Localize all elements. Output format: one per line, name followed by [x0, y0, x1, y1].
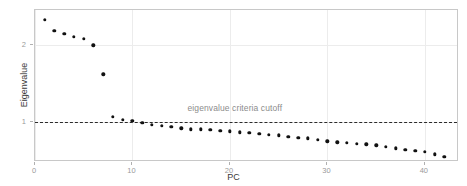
y-axis-title: Eigenvalue [19, 63, 29, 108]
data-point [433, 153, 436, 156]
data-point [384, 145, 387, 148]
data-point [287, 135, 290, 138]
data-point [443, 155, 446, 158]
data-point [189, 127, 192, 130]
data-point [374, 143, 377, 146]
data-point [296, 136, 299, 139]
y-tick-label-1: 1 [12, 116, 26, 125]
data-point [63, 32, 66, 35]
data-point [335, 140, 338, 143]
gridline-x-0 [35, 10, 36, 160]
data-point [277, 134, 280, 137]
data-point [218, 129, 221, 132]
data-point [43, 18, 46, 21]
x-tick-mark [34, 162, 35, 165]
eigenvalue-cutoff-label: eigenvalue criteria cutoff [188, 103, 283, 113]
data-point [306, 137, 309, 140]
data-point [394, 147, 397, 150]
data-point [228, 130, 231, 133]
x-tick-mark [326, 162, 327, 165]
plot-panel: eigenvalue criteria cutoff [34, 9, 458, 161]
y-tick-label-2: 2 [12, 40, 26, 49]
data-point [111, 115, 114, 118]
gridline-y-2 [35, 45, 457, 46]
data-point [82, 37, 85, 40]
data-point [199, 127, 202, 130]
data-point [141, 121, 144, 124]
gridline-x-30 [327, 10, 328, 160]
y-tick-mark [30, 44, 33, 45]
gridline-x-40 [425, 10, 426, 160]
y-tick-mark [30, 121, 33, 122]
x-tick-mark [229, 162, 230, 165]
data-point [53, 29, 56, 32]
data-point [92, 43, 95, 46]
data-point [355, 142, 358, 145]
data-point [160, 124, 163, 127]
scree-plot: eigenvalue criteria cutoff 010203040 12 … [0, 0, 467, 186]
data-point [365, 143, 368, 146]
data-point [326, 140, 329, 143]
data-point [72, 35, 75, 38]
data-point [102, 72, 105, 75]
data-point [316, 138, 319, 141]
data-point [209, 128, 212, 131]
data-point [150, 123, 153, 126]
data-point [345, 141, 348, 144]
data-point [423, 150, 426, 153]
data-point [413, 149, 416, 152]
data-point [404, 148, 407, 151]
data-point [180, 127, 183, 130]
gridline-x-20 [230, 10, 231, 160]
gridline-x-10 [132, 10, 133, 160]
data-point [267, 133, 270, 136]
data-point [248, 131, 251, 134]
x-axis-title: PC [0, 172, 467, 182]
x-tick-mark [131, 162, 132, 165]
data-point [170, 125, 173, 128]
eigenvalue-criteria-cutoff-line [35, 122, 457, 123]
data-point [257, 132, 260, 135]
x-tick-mark [424, 162, 425, 165]
data-point [238, 131, 241, 134]
